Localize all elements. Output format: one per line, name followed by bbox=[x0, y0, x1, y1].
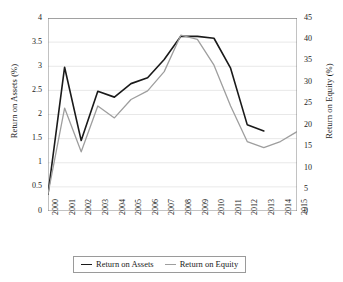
legend-item[interactable]: Return on Equity bbox=[165, 259, 239, 269]
legend-swatch-line-icon bbox=[165, 264, 176, 265]
y-axis-right-tick-label: 45 bbox=[304, 13, 328, 22]
legend-label: Return on Assets bbox=[96, 259, 154, 269]
plot-svg bbox=[48, 18, 297, 211]
y-axis-left-tick-label: 1 bbox=[20, 157, 42, 166]
y-axis-right-tick-label: 40 bbox=[304, 34, 328, 43]
y-axis-left-tick-label: 3 bbox=[20, 61, 42, 70]
y-axis-right-tick-label: 20 bbox=[304, 120, 328, 129]
y-axis-right-tick-label: 5 bbox=[304, 184, 328, 193]
y-axis-right-tick-label: 30 bbox=[304, 77, 328, 86]
y-axis-left-tick-label: 4 bbox=[20, 13, 42, 22]
y-axis-left-tick-label: 0.5 bbox=[20, 181, 42, 190]
y-axis-left-tick-label: 0 bbox=[20, 206, 42, 215]
y-axis-left-tick-label: 1.5 bbox=[20, 133, 42, 142]
y-axis-left-tick-label: 2 bbox=[20, 109, 42, 118]
y-axis-right-tick-label: 15 bbox=[304, 141, 328, 150]
y-axis-left-tick-label: 3.5 bbox=[20, 37, 42, 46]
y-axis-right-tick-label: 25 bbox=[304, 98, 328, 107]
legend-label: Return on Equity bbox=[180, 259, 239, 269]
legend-item[interactable]: Return on Assets bbox=[81, 259, 154, 269]
y-axis-left-tick-label: 2.5 bbox=[20, 85, 42, 94]
chart-container: Return on Assets (%) Return on Equity (%… bbox=[0, 0, 343, 282]
plot-area bbox=[48, 18, 297, 211]
y-axis-left-title: Return on Assets (%) bbox=[9, 31, 19, 171]
chart-legend: Return on AssetsReturn on Equity bbox=[73, 256, 246, 273]
series-line bbox=[48, 36, 264, 194]
legend-swatch-line-icon bbox=[81, 264, 92, 265]
y-axis-right-tick-label: 10 bbox=[304, 163, 328, 172]
x-axis-tick-label: 2015 bbox=[300, 199, 309, 215]
y-axis-right-tick-label: 35 bbox=[304, 55, 328, 64]
